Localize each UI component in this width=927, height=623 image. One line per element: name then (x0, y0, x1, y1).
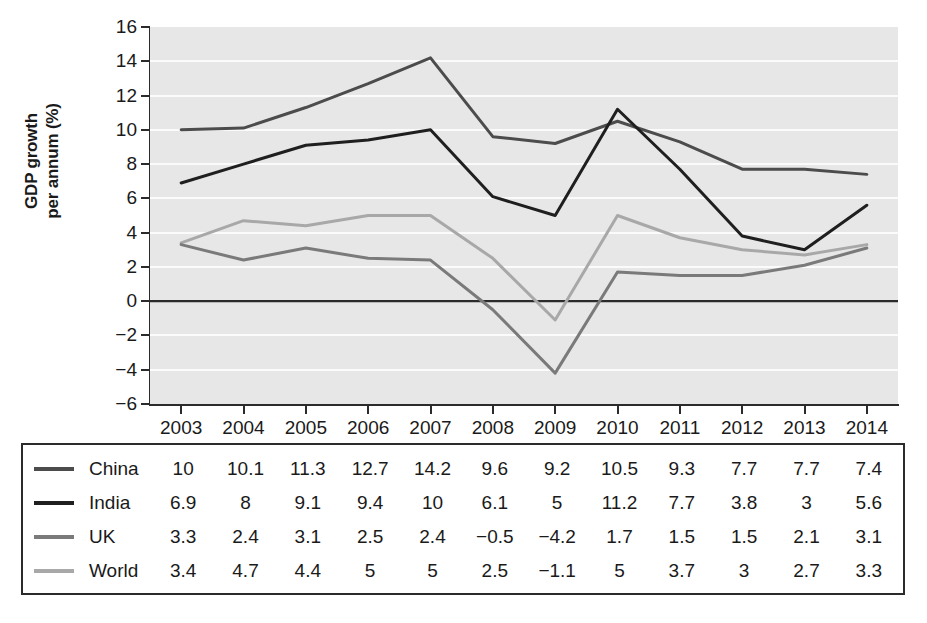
table-cell: −0.5 (463, 524, 527, 550)
table-cell: 7.7 (650, 490, 714, 516)
table-cell: 7.4 (837, 456, 901, 482)
table-cell: 5 (338, 558, 402, 584)
line-chart: GDP growth per annum (%) 1614121086420−2… (0, 0, 927, 440)
x-axis-tick (617, 405, 619, 414)
table-cell: 9.2 (525, 456, 589, 482)
x-tick-label: 2004 (212, 417, 276, 439)
series-label: World (89, 558, 138, 584)
table-cell: 7.7 (712, 456, 776, 482)
series-line-china (181, 58, 867, 175)
legend-data-table: China1010.111.312.714.29.69.210.59.37.77… (21, 443, 905, 595)
legend-swatch-cell (34, 452, 86, 486)
table-cell: 10 (401, 490, 465, 516)
legend-line-icon (34, 467, 74, 471)
table-cell: 5 (401, 558, 465, 584)
table-cell: 5 (525, 490, 589, 516)
table-cell: 6.1 (463, 490, 527, 516)
series-label: UK (89, 524, 115, 550)
table-cell: 2.1 (775, 524, 839, 550)
series-label: China (89, 456, 139, 482)
table-cell: 2.5 (463, 558, 527, 584)
series-line-world (181, 216, 867, 321)
x-tick-label: 2010 (586, 417, 650, 439)
table-cell: 11.2 (588, 490, 652, 516)
x-tick-label: 2011 (648, 417, 712, 439)
table-cell: 2.4 (401, 524, 465, 550)
series-line-uk (181, 245, 867, 374)
y-tick-label: 8 (95, 154, 137, 173)
y-axis-tick (141, 403, 150, 405)
y-axis-tick (141, 300, 150, 302)
legend-line-icon (34, 569, 74, 573)
y-tick-label: 4 (95, 223, 137, 242)
y-tick-label: 16 (95, 17, 137, 36)
y-tick-label: 2 (95, 257, 137, 276)
y-axis-tick (141, 95, 150, 97)
y-axis-tick (141, 163, 150, 165)
y-axis-tick (141, 129, 150, 131)
table-cell: −1.1 (525, 558, 589, 584)
table-cell: 12.7 (338, 456, 402, 482)
y-axis-tick (141, 26, 150, 28)
table-cell: 10 (151, 456, 215, 482)
x-tick-label: 2006 (336, 417, 400, 439)
table-row: UK3.32.43.12.52.4−0.5−4.21.71.51.52.13.1 (23, 520, 903, 554)
table-cell: 3.3 (837, 558, 901, 584)
table-cell: 9.3 (650, 456, 714, 482)
x-axis-tick (679, 405, 681, 414)
table-cell: 4.4 (276, 558, 340, 584)
series-lines (150, 27, 898, 404)
series-line-india (181, 109, 867, 250)
table-cell: 6.9 (151, 490, 215, 516)
x-axis-line (149, 404, 899, 406)
x-axis-tick (180, 405, 182, 414)
table-cell: 3.8 (712, 490, 776, 516)
table-cell: 14.2 (401, 456, 465, 482)
table-row: World3.44.74.4552.5−1.153.732.73.3 (23, 554, 903, 588)
x-axis-tick (243, 405, 245, 414)
table-cell: 10.1 (214, 456, 278, 482)
x-axis-tick (492, 405, 494, 414)
table-cell: 3.7 (650, 558, 714, 584)
y-axis-title: GDP growth per annum (%) (21, 61, 63, 261)
x-tick-label: 2013 (773, 417, 837, 439)
legend-swatch-cell (34, 486, 86, 520)
table-cell: 3 (775, 490, 839, 516)
legend-rows: China1010.111.312.714.29.69.210.59.37.77… (23, 445, 903, 593)
gdp-growth-figure: GDP growth per annum (%) 1614121086420−2… (0, 0, 927, 623)
y-axis-tick (141, 232, 150, 234)
legend-line-icon (34, 535, 74, 539)
table-cell: 1.5 (712, 524, 776, 550)
legend-swatch-cell (34, 554, 86, 588)
legend-swatch-cell (34, 520, 86, 554)
x-axis-tick (430, 405, 432, 414)
x-tick-label: 2007 (399, 417, 463, 439)
y-axis-tick (141, 334, 150, 336)
table-cell: 2.5 (338, 524, 402, 550)
x-axis-tick (741, 405, 743, 414)
table-cell: 3 (712, 558, 776, 584)
x-axis-tick (367, 405, 369, 414)
table-cell: 3.1 (837, 524, 901, 550)
y-axis-tick (141, 266, 150, 268)
x-tick-label: 2009 (523, 417, 587, 439)
x-tick-label: 2008 (461, 417, 525, 439)
x-tick-label: 2003 (149, 417, 213, 439)
y-tick-label: 6 (95, 188, 137, 207)
x-tick-label: 2005 (274, 417, 338, 439)
x-axis-tick (866, 405, 868, 414)
table-row: China1010.111.312.714.29.69.210.59.37.77… (23, 452, 903, 486)
table-cell: 5.6 (837, 490, 901, 516)
y-tick-label: −4 (95, 360, 137, 379)
table-cell: 3.3 (151, 524, 215, 550)
x-tick-label: 2014 (835, 417, 899, 439)
x-axis-tick (804, 405, 806, 414)
table-cell: 4.7 (214, 558, 278, 584)
table-cell: 7.7 (775, 456, 839, 482)
y-tick-label: 0 (95, 291, 137, 310)
x-axis-tick (554, 405, 556, 414)
y-tick-label: 10 (95, 120, 137, 139)
table-cell: 9.1 (276, 490, 340, 516)
x-axis-tick (305, 405, 307, 414)
table-cell: 1.5 (650, 524, 714, 550)
